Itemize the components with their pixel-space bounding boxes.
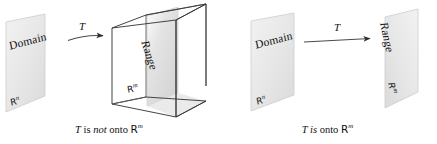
caption-not-onto: T is not onto Rm xyxy=(0,122,218,135)
caption-onto-word: onto xyxy=(317,124,341,135)
range-plane-shape xyxy=(385,9,418,108)
domain-plane-shape xyxy=(6,14,45,112)
cube-floor-diagonal xyxy=(112,97,146,104)
arrow-label-T: T xyxy=(334,21,340,33)
caption-onto: T is onto Rm xyxy=(218,122,437,135)
caption-is: is xyxy=(81,124,93,135)
transformation-arrow xyxy=(68,36,103,41)
caption-space-exponent: m xyxy=(138,122,143,130)
caption-is: is xyxy=(307,124,317,135)
caption-onto: onto xyxy=(107,124,131,135)
caption-not: not xyxy=(93,124,106,135)
domain-plane-shape xyxy=(251,13,294,111)
transformation-arrow xyxy=(304,39,370,43)
arrow-label-T: T xyxy=(79,20,85,32)
panel-onto: Domain Rn T Range Rm T is onto Rm xyxy=(218,0,437,144)
panel-not-onto: Domain Rn T Range Rm T is not onto Rm xyxy=(0,0,218,144)
caption-space-symbol: R xyxy=(131,123,138,135)
onto-transformation-figure: Domain Rn T Range Rm T is not onto Rm xyxy=(0,0,437,144)
caption-space-exponent: m xyxy=(348,122,353,130)
